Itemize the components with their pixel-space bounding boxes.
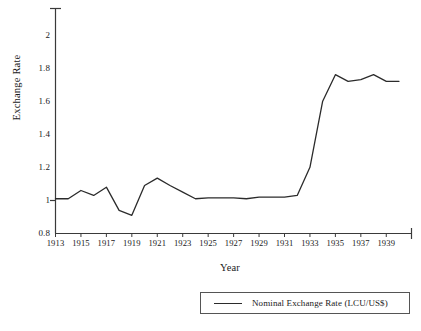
- legend-label-nominal-exchange-rate: Nominal Exchange Rate (LCU/US$): [252, 298, 388, 308]
- chart-figure: Exchange Rate 0.811.21.41.61.82 19131915…: [0, 0, 421, 331]
- chart-legend: Nominal Exchange Rate (LCU/US$): [200, 292, 410, 314]
- plot-area: [0, 0, 421, 331]
- series-line-nominal-exchange-rate: [56, 75, 400, 216]
- x-axis-tick-label: 1939: [366, 239, 406, 248]
- x-axis-title: Year: [55, 262, 405, 273]
- x-axis-tick-labels: 1913191519171919192119231925192719291931…: [0, 239, 421, 253]
- legend-line-swatch: [214, 303, 242, 304]
